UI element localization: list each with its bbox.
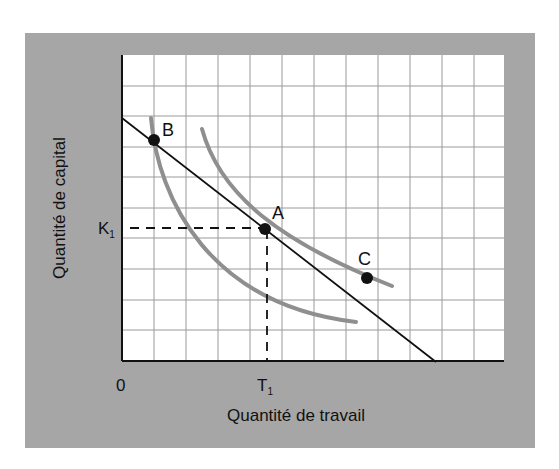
point-a-marker <box>259 223 271 235</box>
point-a-label: A <box>272 203 284 224</box>
x-axis-title: Quantité de travail <box>227 406 365 426</box>
y-axis-title: Quantité de capital <box>50 137 70 279</box>
t1-tick-label: T1 <box>257 376 273 397</box>
point-c-marker <box>361 272 373 284</box>
k1-tick-label: K1 <box>98 219 115 240</box>
point-b-marker <box>148 134 160 146</box>
chart-plot <box>0 0 559 469</box>
point-b-label: B <box>162 120 174 141</box>
point-c-label: C <box>358 249 371 270</box>
origin-label: 0 <box>116 376 125 396</box>
